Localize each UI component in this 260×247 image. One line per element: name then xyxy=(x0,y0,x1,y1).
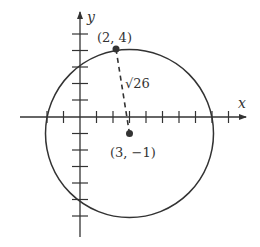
point-on-circle xyxy=(113,46,120,53)
center-label: (3, −1) xyxy=(110,145,156,160)
x-axis-label: x xyxy=(238,95,246,111)
circle-diagram: y x (2, 4) √26 (3, −1) xyxy=(0,0,260,247)
radius-label: √26 xyxy=(125,76,150,91)
radius-line xyxy=(116,49,130,134)
y-axis-label: y xyxy=(86,9,96,25)
point-label-2-4: (2, 4) xyxy=(97,30,132,45)
center-point xyxy=(126,130,133,137)
